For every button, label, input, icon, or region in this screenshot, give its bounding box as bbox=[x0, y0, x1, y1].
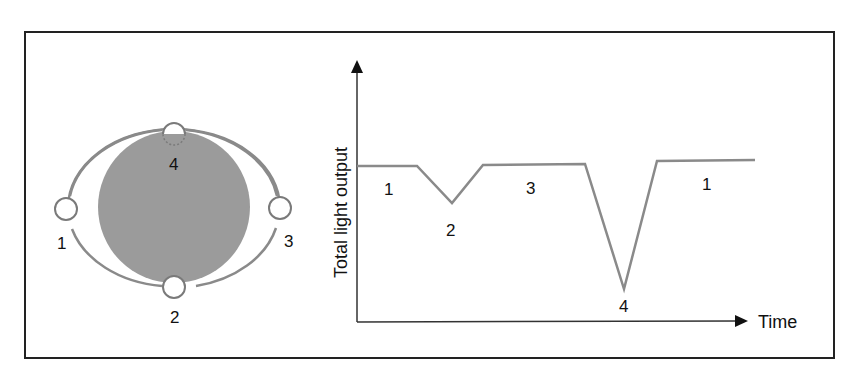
orbit-label-4: 4 bbox=[169, 155, 178, 174]
figure-canvas: 1 2 3 4 Total light output Time 1 2 3 4 … bbox=[0, 0, 863, 376]
x-axis bbox=[357, 321, 738, 322]
x-axis-arrow-icon bbox=[735, 315, 748, 327]
planet-position-4-icon bbox=[163, 123, 185, 134]
orbit-label-2: 2 bbox=[170, 308, 179, 327]
curve-label-2: 2 bbox=[446, 221, 455, 240]
orbit-label-1: 1 bbox=[57, 234, 66, 253]
light-curve-chart: Total light output Time 1 2 3 4 1 bbox=[331, 60, 797, 332]
curve-label-1: 1 bbox=[384, 180, 393, 199]
curve-label-1-repeat: 1 bbox=[702, 175, 711, 194]
y-axis-arrow-icon bbox=[351, 60, 363, 73]
curve-label-4: 4 bbox=[619, 297, 628, 316]
orbit-diagram: 1 2 3 4 bbox=[55, 123, 293, 327]
planet-position-1-icon bbox=[55, 198, 77, 220]
planet-position-3-icon bbox=[269, 197, 291, 219]
star-disc bbox=[98, 131, 250, 283]
curve-label-3: 3 bbox=[526, 179, 535, 198]
planet-position-2-icon bbox=[163, 276, 185, 298]
orbit-label-3: 3 bbox=[284, 232, 293, 251]
y-axis-label: Total light output bbox=[331, 147, 351, 278]
x-axis-label: Time bbox=[758, 312, 797, 332]
light-curve-line bbox=[357, 160, 755, 289]
